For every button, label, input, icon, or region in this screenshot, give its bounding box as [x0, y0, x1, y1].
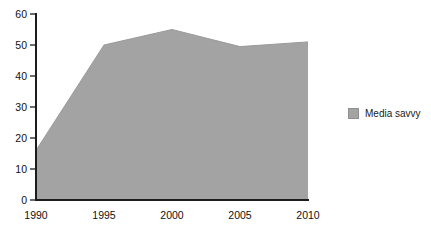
y-tick-label-50: 50: [15, 39, 27, 51]
y-tick-label-0: 0: [21, 194, 27, 206]
chart-svg: 60 50 40 30 20 10 0 1990 1995 2000 2005 …: [0, 0, 345, 233]
y-tick-label-20: 20: [15, 132, 27, 144]
legend-label-media-savvy: Media savvy: [365, 108, 421, 119]
area-chart: 60 50 40 30 20 10 0 1990 1995 2000 2005 …: [0, 0, 345, 233]
x-tick-label-1995: 1995: [92, 209, 116, 221]
y-tick-label-30: 30: [15, 101, 27, 113]
y-tick-label-40: 40: [15, 70, 27, 82]
legend-swatch-media-savvy: [348, 108, 359, 119]
y-tick-label-60: 60: [15, 8, 27, 20]
x-tick-label-2000: 2000: [160, 209, 184, 221]
x-tick-label-1990: 1990: [24, 209, 48, 221]
x-tick-label-2010: 2010: [296, 209, 320, 221]
chart-screenshot: 60 50 40 30 20 10 0 1990 1995 2000 2005 …: [0, 0, 431, 233]
x-tick-label-2005: 2005: [228, 209, 252, 221]
series-area-media-savvy: [36, 30, 308, 201]
y-tick-label-10: 10: [15, 163, 27, 175]
chart-legend: Media savvy: [348, 108, 421, 119]
